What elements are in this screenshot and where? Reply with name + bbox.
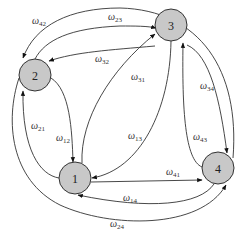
label-w14: ω14 — [123, 192, 138, 205]
node-4-label: 4 — [215, 162, 221, 176]
label-w32: ω32 — [95, 53, 110, 66]
label-w43: ω43 — [193, 131, 208, 144]
node-1: 1 — [59, 162, 91, 194]
label-w13: ω13 — [128, 130, 143, 143]
node-1-label: 1 — [72, 172, 78, 186]
node-2-label: 2 — [32, 69, 38, 83]
edge-24 — [12, 78, 226, 221]
label-w31: ω31 — [131, 71, 146, 84]
edge-31 — [82, 34, 155, 163]
node-4: 4 — [202, 152, 234, 184]
edge-12 — [51, 78, 73, 162]
edge-14 — [78, 184, 214, 204]
node-3-label: 3 — [168, 19, 174, 33]
label-w23: ω23 — [108, 11, 123, 24]
label-w12: ω12 — [56, 132, 71, 145]
graph-svg: 1 2 3 4 ω42 ω23 ω32 ω31 ω34 ω21 ω12 ω13 … — [0, 0, 243, 243]
node-3: 3 — [155, 9, 187, 41]
graph-diagram: 1 2 3 4 ω42 ω23 ω32 ω31 ω34 ω21 ω12 ω13 … — [0, 0, 243, 243]
label-w41: ω41 — [166, 166, 181, 179]
edge-43 — [183, 43, 202, 167]
label-w21: ω21 — [31, 120, 46, 133]
edge-21 — [23, 91, 59, 178]
label-w42: ω42 — [32, 15, 47, 28]
node-2: 2 — [19, 59, 51, 91]
edge-41 — [91, 180, 202, 182]
